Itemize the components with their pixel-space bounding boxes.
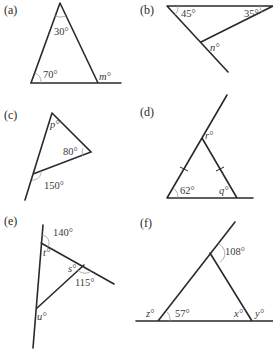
triangle-d: [167, 95, 253, 198]
angle-arc-base-left: [35, 73, 41, 83]
diagram-c: (c) p° 80° 150°: [4, 108, 91, 200]
angle-label-top-right: 35°: [244, 8, 259, 19]
angle-label-top: t°: [43, 247, 51, 258]
angle-arc-top-left: [175, 6, 178, 15]
triangle-exercises-figure: (a) 30° 70° m° (b) 45° 35° n° (c) p° 80°…: [0, 0, 273, 360]
part-label-c: (c): [4, 108, 17, 122]
angle-label-base-left: 57°: [175, 308, 190, 319]
triangle-f: [136, 222, 273, 321]
angle-label-apex: 30°: [54, 26, 69, 37]
angle-label-exterior-left: z°: [145, 308, 155, 319]
angle-arc-base-left: [166, 311, 170, 321]
angle-label-exterior-right: 115°: [75, 277, 95, 288]
diagram-f: (f) 108° 57° z° x° y°: [136, 216, 273, 321]
part-label-e: (e): [4, 214, 17, 228]
angle-label-exterior-right: y°: [254, 308, 265, 319]
triangle-e: [33, 225, 114, 348]
angle-label-exterior: n°: [210, 42, 220, 53]
angle-label-base-left: 62°: [180, 185, 195, 196]
angle-arc-exterior-top: [218, 244, 225, 262]
angle-label-top: p°: [49, 119, 60, 130]
diagram-d: (d) 62° q° r°: [140, 95, 253, 198]
angle-label-base-left: 70°: [43, 69, 58, 80]
angle-label-top-left: 45°: [181, 8, 196, 19]
diagram-b: (b) 45° 35° n°: [140, 3, 273, 72]
angle-label-exterior: r°: [205, 130, 214, 141]
angle-label-exterior-top: 108°: [225, 246, 245, 257]
part-label-f: (f): [140, 216, 152, 230]
angle-label-exterior-top: 140°: [53, 227, 73, 238]
angle-label-exterior: 150°: [44, 180, 64, 191]
angle-label-exterior: m°: [99, 71, 112, 82]
angle-arc-apex: [55, 16, 66, 17]
angle-arc-base-left: [173, 188, 178, 198]
angle-arc-top-right: [260, 6, 262, 12]
part-label-a: (a): [4, 3, 17, 17]
diagram-e: (e) 140° t° s° 115° u°: [4, 214, 114, 348]
part-label-d: (d): [140, 105, 154, 119]
angle-label-right: 80°: [63, 146, 78, 157]
angle-label-base-right: x°: [233, 308, 244, 319]
angle-label-bottom: u°: [37, 311, 47, 322]
diagram-a: (a) 30° 70° m°: [4, 3, 121, 83]
angle-arc-right: [82, 148, 83, 156]
angle-label-right: s°: [68, 263, 77, 274]
part-label-b: (b): [140, 3, 154, 17]
angle-label-base-right: q°: [219, 185, 229, 196]
